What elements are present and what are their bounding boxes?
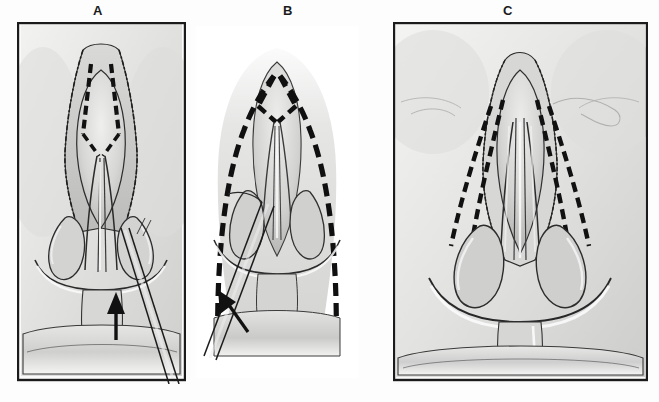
panel-c [393,22,648,384]
figure-root: A [0,0,659,402]
panel-a [17,22,186,384]
panel-label-b: B [276,4,300,17]
panel-b [196,26,358,378]
panel-a-illustration [17,22,186,384]
panel-b-upper-lip [214,311,340,357]
panel-c-upper-lip [398,346,643,375]
panel-label-a: A [86,4,110,17]
caption-strip [0,388,659,402]
panel-c-illustration [393,22,648,384]
panel-b-illustration [196,26,358,378]
panel-label-c: C [496,4,520,17]
